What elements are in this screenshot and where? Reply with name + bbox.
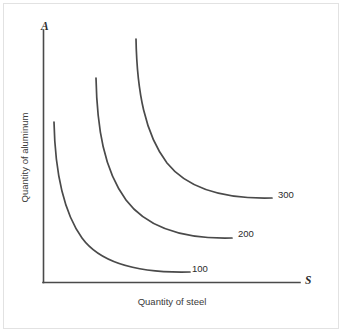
- y-axis-title: Quantity of aluminum: [19, 88, 30, 228]
- x-axis-title: Quantity of steel: [0, 296, 344, 307]
- plot-area: [0, 0, 344, 334]
- isoquant-label-300: 300: [278, 189, 294, 200]
- x-axis-symbol-label: S: [305, 274, 311, 286]
- isoquant-chart-figure: A S Quantity of steel Quantity of alumin…: [0, 0, 344, 334]
- isoquant-curve-100: [54, 122, 190, 272]
- y-axis-symbol-label: A: [41, 20, 49, 32]
- isoquant-label-200: 200: [238, 228, 254, 239]
- isoquant-label-100: 100: [192, 263, 208, 274]
- isoquant-curve-300: [136, 39, 272, 198]
